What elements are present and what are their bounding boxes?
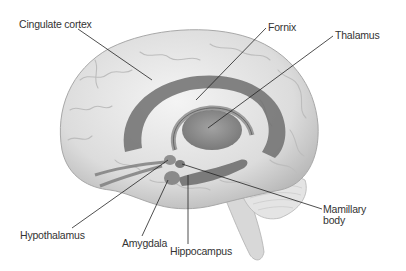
label-mamillary-body: Mamillary body	[323, 204, 366, 226]
label-thalamus: Thalamus	[335, 30, 380, 41]
hypothalamus-shape	[164, 155, 176, 165]
mamillary-body-shape	[175, 160, 185, 168]
label-amygdala: Amygdala	[122, 238, 167, 249]
label-fornix: Fornix	[268, 22, 296, 33]
label-hypothalamus: Hypothalamus	[20, 230, 85, 241]
thalamus-shape	[182, 110, 242, 150]
label-hippocampus: Hippocampus	[170, 246, 232, 257]
limbic-system-diagram: Cingulate cortex Fornix Thalamus Hypotha…	[0, 0, 406, 271]
label-cingulate-cortex: Cingulate cortex	[19, 19, 92, 30]
